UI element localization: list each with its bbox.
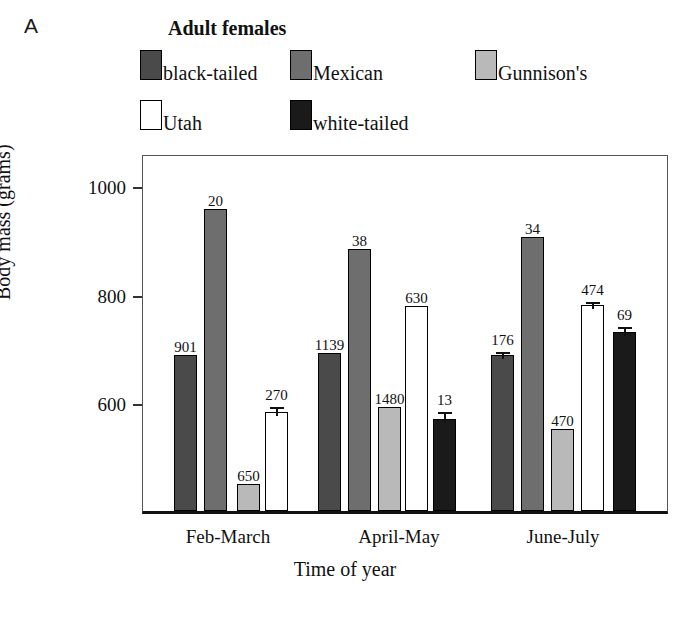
bar bbox=[405, 306, 428, 511]
legend-row-top: black-tailed Mexican Gunnison's bbox=[140, 50, 587, 83]
y-tick-label: 600 bbox=[70, 394, 126, 416]
error-bar bbox=[586, 302, 600, 309]
legend-entry-mexican: Mexican bbox=[290, 50, 475, 83]
bar bbox=[318, 353, 341, 511]
legend-label-black-tailed: black-tailed bbox=[163, 63, 257, 83]
legend-swatch-white-tailed bbox=[290, 100, 312, 130]
legend-entry-utah: Utah bbox=[140, 100, 290, 133]
legend-entry-black-tailed: black-tailed bbox=[140, 50, 290, 83]
bar bbox=[174, 355, 197, 511]
bar bbox=[613, 332, 636, 511]
bar-sample-size-label: 1139 bbox=[315, 337, 344, 354]
bar-sample-size-label: 13 bbox=[437, 392, 452, 409]
legend-label-white-tailed: white-tailed bbox=[313, 113, 409, 133]
bar-sample-size-label: 1480 bbox=[375, 391, 405, 408]
error-bar bbox=[270, 407, 284, 416]
y-tick-mark bbox=[133, 296, 142, 298]
error-bar bbox=[496, 352, 510, 359]
plot-area: 901113917620383465014804702706304741369 bbox=[142, 155, 668, 514]
bar bbox=[348, 249, 371, 511]
bar bbox=[581, 305, 604, 511]
bar-sample-size-label: 69 bbox=[617, 307, 632, 324]
bar bbox=[237, 484, 260, 511]
bar-sample-size-label: 34 bbox=[525, 221, 540, 238]
x-group-label: April-May bbox=[358, 526, 439, 548]
bar bbox=[265, 412, 288, 511]
y-tick-label: 1000 bbox=[70, 177, 126, 199]
bar-sample-size-label: 650 bbox=[237, 468, 260, 485]
legend-entry-gunnisons: Gunnison's bbox=[475, 50, 587, 83]
legend-label-utah: Utah bbox=[163, 113, 202, 133]
error-bar bbox=[438, 412, 452, 423]
panel-letter: A bbox=[24, 14, 39, 38]
error-bar bbox=[618, 327, 632, 336]
figure-panel: A Adult females black-tailed Mexican Gun… bbox=[0, 0, 690, 620]
bar-sample-size-label: 474 bbox=[581, 282, 604, 299]
bars-layer: 901113917620383465014804702706304741369 bbox=[143, 156, 667, 511]
legend-row-bottom: Utah white-tailed bbox=[140, 100, 409, 133]
legend-swatch-gunnisons bbox=[475, 50, 497, 80]
legend-swatch-mexican bbox=[290, 50, 312, 80]
bar-sample-size-label: 270 bbox=[265, 387, 288, 404]
bar bbox=[521, 237, 544, 511]
legend-title: Adult females bbox=[168, 17, 286, 40]
bar bbox=[204, 209, 227, 511]
legend-swatch-black-tailed bbox=[140, 50, 162, 80]
bar-sample-size-label: 176 bbox=[491, 332, 514, 349]
x-group-label: Feb-March bbox=[186, 526, 270, 548]
y-tick-mark bbox=[133, 187, 142, 189]
y-tick-mark bbox=[133, 404, 142, 406]
bar-sample-size-label: 20 bbox=[208, 193, 223, 210]
legend-label-gunnisons: Gunnison's bbox=[498, 63, 587, 83]
bar bbox=[551, 429, 574, 511]
legend-swatch-utah bbox=[140, 100, 162, 130]
y-axis-title: Body mass (grams) bbox=[0, 144, 15, 300]
bar-sample-size-label: 38 bbox=[352, 233, 367, 250]
legend-entry-white-tailed: white-tailed bbox=[290, 100, 409, 133]
x-group-label: June-July bbox=[527, 526, 600, 548]
bar-sample-size-label: 901 bbox=[174, 339, 197, 356]
bar bbox=[491, 355, 514, 511]
bar-sample-size-label: 630 bbox=[405, 290, 428, 307]
bar-sample-size-label: 470 bbox=[551, 413, 574, 430]
bar bbox=[378, 407, 401, 511]
y-tick-label: 800 bbox=[70, 286, 126, 308]
x-axis-title: Time of year bbox=[0, 558, 690, 581]
bar bbox=[433, 419, 456, 511]
legend-label-mexican: Mexican bbox=[313, 63, 383, 83]
